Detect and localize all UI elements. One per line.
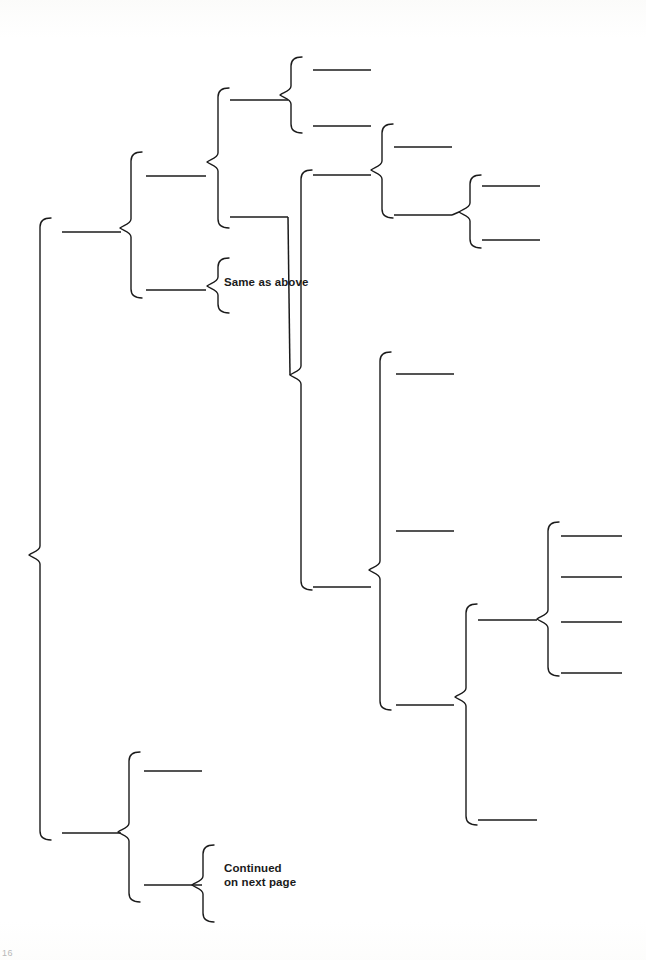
annotation-continued-on-next-page: Continued on next page: [224, 861, 296, 889]
brace-diagram: [0, 0, 646, 960]
page-folio-number: 16: [2, 948, 13, 958]
brace-2: [207, 88, 229, 228]
annotation-same-as-above: Same as above: [224, 275, 308, 289]
brace-5: [459, 175, 481, 248]
brace-1: [120, 152, 142, 298]
brace-2: [192, 845, 214, 922]
scanned-page: Same as above Continued on next page 16: [0, 0, 646, 960]
connector: [288, 217, 290, 375]
brace-4: [369, 352, 391, 710]
brace-6: [537, 522, 559, 676]
connector: [452, 212, 459, 215]
brace-0: [29, 218, 51, 840]
brace-4: [371, 124, 393, 218]
brace-1: [118, 752, 140, 902]
brace-3: [290, 170, 312, 590]
braces-layer: [29, 57, 559, 922]
brace-5: [455, 604, 477, 825]
brace-3: [280, 57, 302, 133]
entry-rules-layer: [62, 70, 622, 885]
